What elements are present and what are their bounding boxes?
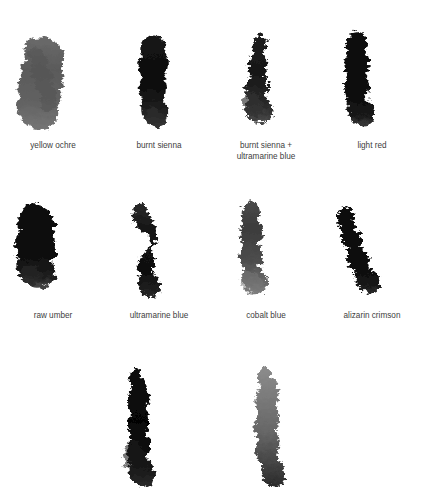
swatch-art-unlabeled-left	[96, 356, 202, 499]
swatch-cell-ultramarine-blue: ultramarine blue	[106, 186, 212, 354]
swatch-cell-cobalt-blue: cobalt blue	[213, 186, 319, 354]
swatch-label-light-red: light red	[319, 140, 425, 151]
swatch-art-burnt-sienna	[106, 16, 212, 136]
swatch-cell-burnt-sienna-ultramarine-blue: burnt sienna + ultramarine blue	[213, 16, 319, 184]
swatch-label-raw-umber: raw umber	[0, 310, 106, 321]
swatch-art-alizarin-crimson	[319, 186, 425, 306]
pigment-swatch-chart: yellow ochre	[0, 0, 426, 499]
swatch-label-burnt-sienna-ultramarine-blue: burnt sienna + ultramarine blue	[213, 140, 319, 162]
sheet-title	[0, 0, 426, 5]
swatch-art-cobalt-blue	[213, 186, 319, 306]
swatch-label-cobalt-blue: cobalt blue	[213, 310, 319, 321]
swatch-cell-alizarin-crimson: alizarin crimson	[319, 186, 425, 354]
swatch-art-light-red	[319, 16, 425, 136]
swatch-art-burnt-sienna-ultramarine-blue	[213, 16, 319, 136]
swatch-cell-yellow-ochre: yellow ochre	[0, 16, 106, 184]
swatch-cell-light-red: light red	[319, 16, 425, 184]
swatch-cell-unlabeled-left	[96, 356, 202, 499]
swatch-label-yellow-ochre: yellow ochre	[0, 140, 106, 151]
swatch-label-burnt-sienna: burnt sienna	[106, 140, 212, 151]
swatch-cell-raw-umber: raw umber	[0, 186, 106, 354]
swatch-art-raw-umber	[0, 186, 106, 306]
swatch-art-yellow-ochre	[0, 16, 106, 136]
swatch-art-unlabeled-right	[226, 356, 332, 499]
swatch-art-ultramarine-blue	[106, 186, 212, 306]
swatch-label-ultramarine-blue: ultramarine blue	[106, 310, 212, 321]
swatch-label-alizarin-crimson: alizarin crimson	[319, 310, 425, 321]
swatch-cell-unlabeled-right	[226, 356, 332, 499]
swatch-cell-burnt-sienna: burnt sienna	[106, 16, 212, 184]
